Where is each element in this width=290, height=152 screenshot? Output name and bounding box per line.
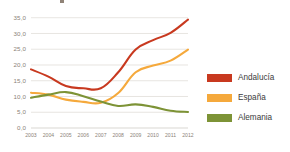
- legend-label: España: [238, 93, 266, 102]
- y-tick-label: 10,0: [14, 93, 27, 100]
- x-tick-label: 2010: [147, 132, 159, 138]
- chart-canvas: 0,05,010,015,020,025,030,035,0 200320042…: [0, 0, 290, 152]
- x-tick-label: 2012: [182, 132, 194, 138]
- legend-label: Andalucía: [238, 73, 275, 82]
- y-tick-label: 35,0: [14, 14, 27, 21]
- legend-swatch: [207, 94, 232, 102]
- y-tick-label: 0,0: [17, 124, 26, 131]
- chart-legend: AndalucíaEspañaAlemania: [207, 73, 275, 122]
- x-axis-tick-labels: 2003200420052006200720082009201020112012: [25, 132, 194, 138]
- x-tick-label: 2005: [60, 132, 72, 138]
- legend-swatch: [207, 74, 232, 82]
- x-tick-label: 2003: [25, 132, 37, 138]
- chart-figure: 0,05,010,015,020,025,030,035,0 200320042…: [0, 0, 290, 152]
- x-tick-label: 2008: [112, 132, 124, 138]
- y-tick-label: 20,0: [14, 61, 27, 68]
- y-tick-label: 30,0: [14, 30, 27, 37]
- x-tick-label: 2009: [130, 132, 142, 138]
- series-line: [31, 50, 188, 104]
- series-line: [31, 20, 188, 90]
- y-tick-label: 25,0: [14, 45, 27, 52]
- x-tick-label: 2007: [95, 132, 107, 138]
- y-tick-label: 5,0: [17, 108, 26, 115]
- x-tick-label: 2011: [165, 132, 176, 138]
- gridlines-group: [31, 18, 188, 128]
- legend-label: Alemania: [238, 113, 273, 122]
- x-tick-label: 2006: [78, 132, 90, 138]
- x-tick-label: 2004: [43, 132, 55, 138]
- series-line: [31, 92, 188, 112]
- y-axis-tick-labels: 0,05,010,015,020,025,030,035,0: [14, 14, 27, 131]
- y-tick-label: 15,0: [14, 77, 27, 84]
- legend-swatch: [207, 114, 232, 122]
